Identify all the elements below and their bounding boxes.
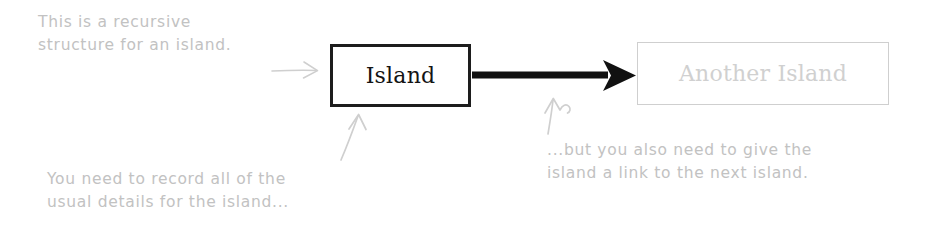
edge-island-to-another-island-icon [472,60,636,91]
pointer-arrow-up-island-icon [341,115,366,161]
diagram-canvas: This is a recursive structure for an isl… [0,0,925,229]
annotation-note-top-left: This is a recursive structure for an isl… [38,11,231,57]
annotation-note-bottom-right: ...but you also need to give the island … [547,139,812,185]
pointer-arrow-right-icon [272,62,318,78]
annotation-line: This is a recursive [38,11,231,34]
annotation-line: usual details for the island... [47,191,289,214]
annotation-line: ...but you also need to give the [547,139,812,162]
annotation-line: island a link to the next island. [547,162,812,185]
node-another-island-label: Another Island [679,61,847,86]
annotation-line: structure for an island. [38,34,231,57]
pointer-arrow-up-link-icon [545,99,570,135]
annotation-line: You need to record all of the [47,168,289,191]
annotation-note-bottom-left: You need to record all of the usual deta… [47,168,289,214]
node-another-island[interactable]: Another Island [637,42,889,105]
node-island[interactable]: Island [330,44,471,107]
node-island-label: Island [366,63,436,88]
